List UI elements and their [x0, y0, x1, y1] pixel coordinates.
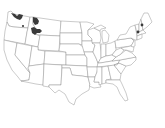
state-new-mexico — [43, 64, 62, 87]
state-kansas — [66, 55, 87, 66]
state-florida — [106, 80, 128, 101]
state-boundaries — [4, 11, 152, 105]
state-north-dakota — [60, 21, 82, 33]
state-new-york — [117, 25, 137, 40]
state-south-dakota — [60, 33, 82, 45]
state-wyoming — [38, 35, 60, 51]
state-maine — [141, 13, 152, 30]
state-indiana — [101, 44, 106, 58]
state-colorado — [44, 51, 66, 65]
us-range-map — [0, 0, 165, 128]
range-dot-northern-new-york — [137, 31, 140, 34]
range-dot-central-washington — [22, 25, 24, 27]
range-dot-vermont — [141, 24, 144, 27]
